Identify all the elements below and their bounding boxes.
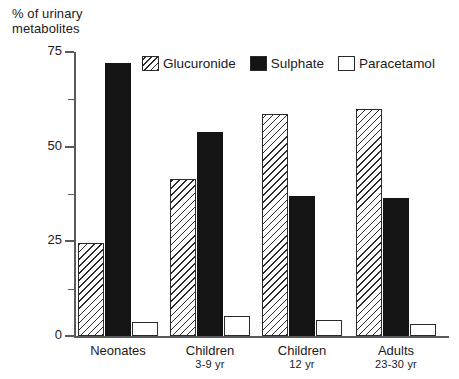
y-axis-tick-label: 50: [28, 138, 62, 153]
y-axis-minor-tick: [68, 289, 74, 290]
bar-glucuronide: [170, 179, 196, 336]
bar-group: [262, 52, 342, 336]
bar-paracetamol: [224, 316, 250, 336]
y-axis-minor-tick: [68, 194, 74, 195]
plot-area: [74, 52, 449, 336]
urinary-metabolites-bar-chart: % of urinary metabolites 0255075 Glucuro…: [0, 0, 459, 379]
y-axis-major-tick: [65, 51, 74, 53]
y-axis-major-tick: [65, 335, 74, 337]
bar-sulphate: [197, 132, 223, 336]
bar-sulphate: [289, 196, 315, 336]
bar-group: [356, 52, 436, 336]
y-axis-major-tick: [65, 240, 74, 242]
x-axis-label-main: Adults: [378, 343, 414, 358]
bar-paracetamol: [132, 322, 158, 336]
x-axis-label-main: Neonates: [90, 343, 146, 358]
bar-paracetamol: [316, 320, 342, 336]
bar-group: [78, 52, 158, 336]
bar-group: [170, 52, 250, 336]
x-axis-line: [74, 336, 449, 338]
x-axis-category-labels: NeonatesChildren3-9 yrChildren12 yrAdult…: [74, 343, 449, 379]
bar-glucuronide: [78, 243, 104, 336]
bar-paracetamol: [410, 324, 436, 336]
y-axis-tick-label: 25: [28, 232, 62, 247]
bar-sulphate: [383, 198, 409, 336]
y-axis-minor-tick: [68, 99, 74, 100]
x-axis-label-main: Children: [186, 343, 234, 358]
y-axis-tick-label: 0: [28, 327, 62, 342]
y-axis-tick-labels: 0255075: [22, 0, 62, 379]
bar-glucuronide: [356, 109, 382, 336]
y-axis-tick-label: 75: [28, 43, 62, 58]
x-axis-label-main: Children: [278, 343, 326, 358]
x-axis-label-sub: 23-30 yr: [336, 358, 456, 371]
bar-sulphate: [105, 63, 131, 336]
bar-glucuronide: [262, 114, 288, 336]
x-axis-label: Adults23-30 yr: [336, 343, 456, 371]
y-axis-major-tick: [65, 146, 74, 148]
